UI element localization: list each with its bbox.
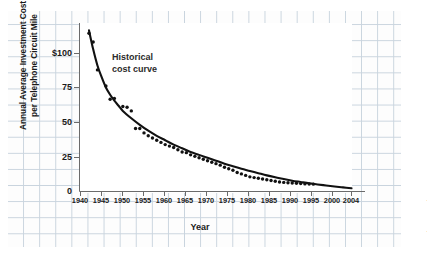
x-tick-label-1940: 1940: [72, 196, 88, 205]
x-tick-label-2000: 2000: [324, 196, 340, 205]
x-tick-label-1980: 1980: [240, 196, 256, 205]
x-tick-label-1955: 1955: [135, 196, 151, 205]
x-tick-label-1950: 1950: [114, 196, 130, 205]
x-tick-label-1965: 1965: [177, 196, 193, 205]
x-tick-label-1990: 1990: [282, 196, 298, 205]
x-tick-label-1970: 1970: [198, 196, 214, 205]
x-tick-label-1985: 1985: [261, 196, 277, 205]
x-tick-label-1995: 1995: [303, 196, 319, 205]
x-tick-label-2004: 2004: [343, 196, 359, 205]
curve-annotation-label: Historical cost curve: [112, 52, 157, 75]
chart-figure: Annual Average Investment Cost per Telep…: [0, 0, 427, 257]
x-tick-label-1975: 1975: [219, 196, 235, 205]
x-axis-tick-labels: 1940 1945 1950 1955 1960 1965 1970 1975 …: [0, 0, 427, 257]
x-axis-title: Year: [0, 222, 400, 232]
x-tick-label-1960: 1960: [156, 196, 172, 205]
x-tick-label-1945: 1945: [93, 196, 109, 205]
